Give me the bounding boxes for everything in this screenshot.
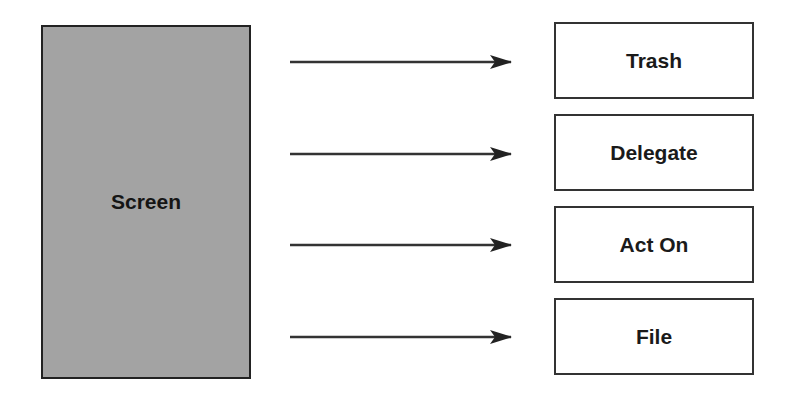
target-label-trash: Trash bbox=[626, 49, 682, 73]
target-label-act-on: Act On bbox=[620, 233, 689, 257]
target-box-act-on: Act On bbox=[554, 206, 754, 283]
target-label-delegate: Delegate bbox=[610, 141, 698, 165]
target-label-file: File bbox=[636, 325, 672, 349]
target-box-trash: Trash bbox=[554, 22, 754, 99]
target-box-file: File bbox=[554, 298, 754, 375]
target-box-delegate: Delegate bbox=[554, 114, 754, 191]
